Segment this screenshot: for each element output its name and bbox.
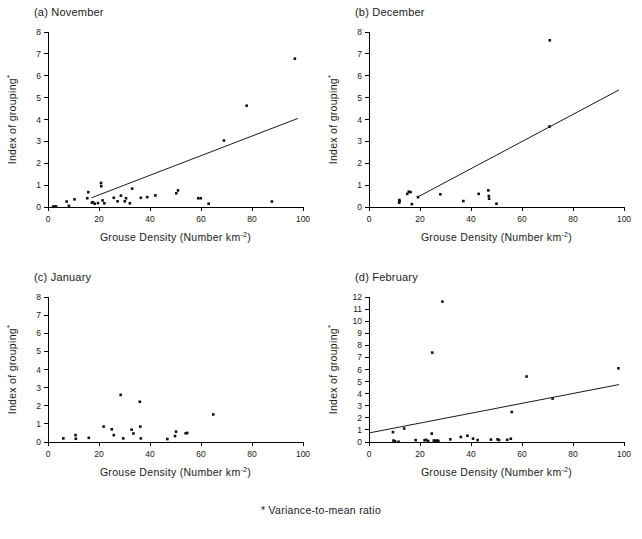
y-tick-label: 7 <box>36 49 41 59</box>
y-tick-label: 1 <box>36 180 41 190</box>
data-point <box>146 196 149 199</box>
x-tick-label: 20 <box>94 214 104 224</box>
data-point <box>397 440 400 443</box>
y-tick-label: 4 <box>357 389 362 399</box>
regression-line <box>369 385 619 433</box>
footnote-variance-to-mean: * Variance-to-mean ratio <box>0 504 642 516</box>
data-point <box>548 125 551 128</box>
data-point <box>132 432 135 435</box>
x-tick-label: 0 <box>46 449 51 459</box>
data-point <box>93 202 96 205</box>
x-tick-label: 40 <box>145 214 155 224</box>
y-tick-label: 1 <box>36 419 41 429</box>
data-point <box>617 367 620 370</box>
regression-line <box>417 90 618 197</box>
data-point <box>417 196 420 199</box>
data-point <box>112 197 115 200</box>
data-point <box>511 411 514 414</box>
x-axis-title: Grouse Density (Number km-2) <box>100 231 251 243</box>
x-tick-label: 40 <box>466 214 476 224</box>
data-point <box>197 197 200 200</box>
data-point <box>466 434 469 437</box>
y-tick-label: 7 <box>357 49 362 59</box>
data-point <box>120 194 123 197</box>
y-tick-label: 3 <box>36 136 41 146</box>
data-point <box>129 202 132 205</box>
y-tick-label: 0 <box>357 437 362 447</box>
data-point <box>431 351 434 354</box>
data-point <box>394 440 397 443</box>
x-tick-label: 100 <box>296 214 310 224</box>
panel-november: (a) November 012345678020406080100Grouse… <box>0 0 321 265</box>
y-tick-label: 6 <box>36 328 41 338</box>
data-point <box>411 203 414 206</box>
data-point <box>437 440 440 443</box>
y-tick-label: 7 <box>357 352 362 362</box>
x-tick-label: 60 <box>517 214 527 224</box>
data-point <box>207 202 210 205</box>
data-point <box>212 413 215 416</box>
data-point <box>86 197 89 200</box>
x-tick-label: 0 <box>367 449 372 459</box>
data-point <box>119 394 122 397</box>
x-tick-label: 100 <box>296 449 310 459</box>
data-point <box>74 434 77 437</box>
data-point <box>488 195 491 198</box>
y-tick-label: 3 <box>357 401 362 411</box>
data-point <box>139 425 142 428</box>
data-point <box>100 182 103 185</box>
x-axis-title: Grouse Density (Number km-2) <box>421 231 572 243</box>
data-point <box>87 191 90 194</box>
x-tick-label: 0 <box>46 214 51 224</box>
figure-container: (a) November 012345678020406080100Grouse… <box>0 0 642 539</box>
data-point <box>449 438 452 441</box>
y-tick-label: 4 <box>357 115 362 125</box>
data-point <box>101 199 104 202</box>
data-point <box>223 139 226 142</box>
x-tick-label: 20 <box>415 214 425 224</box>
data-point <box>102 425 105 428</box>
data-point <box>551 397 554 400</box>
data-point <box>409 191 412 194</box>
data-point <box>427 440 430 443</box>
x-tick-label: 80 <box>568 214 578 224</box>
x-tick-label: 80 <box>247 449 257 459</box>
data-point <box>74 437 77 440</box>
y-tick-label: 10 <box>353 316 363 326</box>
data-point <box>62 437 65 440</box>
data-point <box>112 434 115 437</box>
y-tick-label: 0 <box>36 202 41 212</box>
data-point <box>271 200 274 203</box>
y-tick-label: 1 <box>357 425 362 435</box>
x-axis-title: Grouse Density (Number km-2) <box>421 466 572 478</box>
data-point <box>199 197 202 200</box>
y-axis-title: Index of grouping* <box>326 75 339 165</box>
x-tick-label: 80 <box>247 214 257 224</box>
y-tick-label: 1 <box>357 180 362 190</box>
x-tick-label: 100 <box>617 449 631 459</box>
data-point <box>65 200 68 203</box>
x-tick-label: 20 <box>415 449 425 459</box>
data-point <box>245 104 248 107</box>
data-point <box>116 200 119 203</box>
data-point <box>548 39 551 42</box>
data-point <box>125 197 128 200</box>
x-tick-label: 20 <box>94 449 104 459</box>
data-point <box>472 437 475 440</box>
data-point <box>439 193 442 196</box>
data-point <box>430 432 433 435</box>
scatter-plot-december: 012345678020406080100Grouse Density (Num… <box>321 0 642 265</box>
data-point <box>103 202 106 205</box>
y-axis-title: Index of grouping* <box>5 75 18 165</box>
x-axis-title: Grouse Density (Number km-2) <box>100 466 251 478</box>
y-tick-label: 3 <box>36 383 41 393</box>
data-point <box>460 436 463 439</box>
y-tick-label: 3 <box>357 136 362 146</box>
data-point <box>166 438 169 441</box>
data-point <box>97 202 100 205</box>
y-tick-label: 6 <box>357 365 362 375</box>
data-point <box>175 192 178 195</box>
data-point <box>154 194 157 197</box>
y-tick-label: 5 <box>357 93 362 103</box>
data-point <box>174 435 177 438</box>
